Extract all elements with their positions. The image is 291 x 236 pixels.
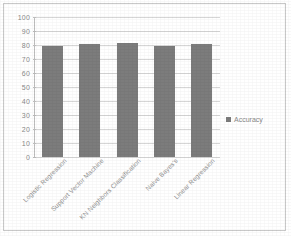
y-axis-tick-label: 70: [22, 56, 30, 63]
y-axis-tick-label: 50: [22, 84, 30, 91]
y-axis-tick: [33, 31, 36, 32]
y-axis-tick: [33, 17, 36, 18]
x-axis-category-labels: Logistic RegressionSupport Vector Machin…: [34, 157, 220, 236]
y-axis-tick: [33, 73, 36, 74]
y-axis-tick-label: 10: [22, 140, 30, 147]
chart-frame: 0102030405060708090100 Logistic Regressi…: [3, 3, 286, 231]
y-axis-tick-label: 0: [26, 154, 30, 161]
y-axis-tick-label: 80: [22, 42, 30, 49]
y-axis-tick: [33, 45, 36, 46]
y-axis-tick-label: 40: [22, 98, 30, 105]
y-axis-tick: [33, 143, 36, 144]
y-axis-tick: [33, 101, 36, 102]
y-axis-tick-label: 90: [22, 28, 30, 35]
y-axis-tick: [33, 115, 36, 116]
bar: [42, 46, 63, 157]
gridline: [34, 31, 220, 32]
legend-swatch-icon: [226, 117, 231, 122]
y-axis-tick: [33, 59, 36, 60]
y-axis-tick-label: 20: [22, 126, 30, 133]
y-axis-tick: [33, 87, 36, 88]
y-axis-tick: [33, 129, 36, 130]
chart-legend: Accuracy: [226, 116, 263, 123]
gridline: [34, 17, 220, 18]
y-axis-tick-label: 30: [22, 112, 30, 119]
y-axis-tick-label: 60: [22, 70, 30, 77]
legend-label-accuracy: Accuracy: [234, 116, 263, 123]
y-axis-tick-label: 100: [18, 14, 30, 21]
